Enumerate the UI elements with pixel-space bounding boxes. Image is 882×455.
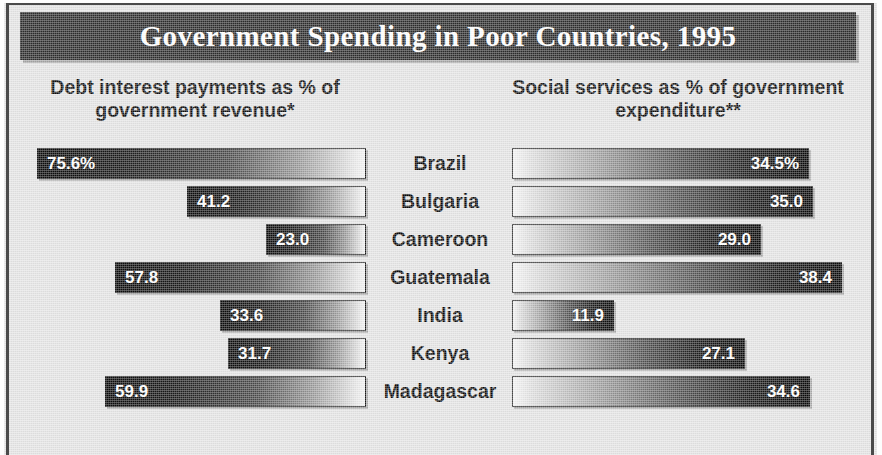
bar-value-label: 59.9 (115, 382, 148, 402)
bar-value-label: 33.6 (230, 306, 263, 326)
bar-track-left: 59.9 (18, 376, 366, 407)
bar-social-services[interactable]: 35.0 (512, 186, 813, 217)
bar-track-right: 38.4 (512, 262, 856, 293)
bar-track-left: 33.6 (18, 300, 366, 331)
bar-social-services[interactable]: 29.0 (512, 224, 761, 255)
bar-value-label: 23.0 (276, 230, 309, 250)
page-margin-right (877, 0, 882, 455)
country-label: Bulgaria (368, 186, 512, 217)
chart-row: 33.6India11.9 (0, 300, 882, 331)
bar-value-label: 31.7 (238, 344, 271, 364)
chart-row: 75.6%Brazil34.5% (0, 148, 882, 179)
chart-row: 31.7Kenya27.1 (0, 338, 882, 369)
bar-value-label: 35.0 (770, 192, 803, 212)
bar-value-label: 11.9 (572, 306, 604, 326)
chart-row: 57.8Guatemala38.4 (0, 262, 882, 293)
bar-social-services[interactable]: 38.4 (512, 262, 842, 293)
bar-debt-interest[interactable]: 59.9 (105, 376, 366, 407)
bar-track-left: 57.8 (18, 262, 366, 293)
chart-row: 59.9Madagascar34.6 (0, 376, 882, 407)
bar-debt-interest[interactable]: 75.6% (37, 148, 366, 179)
bar-social-services[interactable]: 34.6 (512, 376, 810, 407)
country-label: India (368, 300, 512, 331)
frame-rule-left (6, 3, 9, 455)
bar-value-label: 27.1 (702, 344, 735, 364)
bar-value-label: 75.6% (47, 154, 95, 174)
bar-debt-interest[interactable]: 31.7 (228, 338, 366, 369)
bar-value-label: 29.0 (718, 230, 751, 250)
bar-debt-interest[interactable]: 57.8 (115, 262, 366, 293)
bar-track-right: 35.0 (512, 186, 856, 217)
country-label: Guatemala (368, 262, 512, 293)
bar-value-label: 41.2 (197, 192, 230, 212)
chart-figure: Government Spending in Poor Countries, 1… (0, 0, 882, 455)
bar-value-label: 57.8 (125, 268, 158, 288)
bar-track-right: 27.1 (512, 338, 856, 369)
bar-debt-interest[interactable]: 23.0 (266, 224, 366, 255)
bar-social-services[interactable]: 27.1 (512, 338, 745, 369)
bar-track-right: 29.0 (512, 224, 856, 255)
bar-value-label: 34.6 (767, 382, 800, 402)
country-label: Brazil (368, 148, 512, 179)
bar-track-left: 23.0 (18, 224, 366, 255)
chart-row: 41.2Bulgaria35.0 (0, 186, 882, 217)
bar-debt-interest[interactable]: 33.6 (220, 300, 366, 331)
frame-rule-right (871, 3, 874, 455)
bar-track-right: 11.9 (512, 300, 856, 331)
bar-social-services[interactable]: 11.9 (512, 300, 614, 331)
bar-track-left: 31.7 (18, 338, 366, 369)
frame-rule-top (6, 3, 874, 5)
bar-track-left: 75.6% (18, 148, 366, 179)
chart-rows: 75.6%Brazil34.5%41.2Bulgaria35.023.0Came… (0, 0, 882, 455)
bar-value-label: 34.5% (751, 154, 799, 174)
chart-row: 23.0Cameroon29.0 (0, 224, 882, 255)
bar-social-services[interactable]: 34.5% (512, 148, 809, 179)
country-label: Cameroon (368, 224, 512, 255)
country-label: Kenya (368, 338, 512, 369)
bar-track-right: 34.6 (512, 376, 856, 407)
bar-value-label: 38.4 (799, 268, 832, 288)
bar-track-left: 41.2 (18, 186, 366, 217)
bar-debt-interest[interactable]: 41.2 (187, 186, 366, 217)
bar-track-right: 34.5% (512, 148, 856, 179)
country-label: Madagascar (368, 376, 512, 407)
page-margin-left (0, 0, 4, 455)
